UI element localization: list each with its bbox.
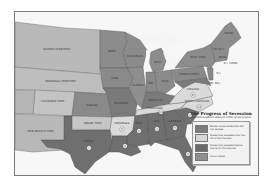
svg-text:10: 10 [197, 105, 201, 109]
order-marker-north-carolina: 10 [197, 105, 201, 109]
swatch-border-states [195, 125, 208, 133]
map-legend: The Progress of Secession (Circled numbe… [186, 111, 256, 166]
order-marker-tennessee: 11 [159, 110, 163, 114]
label-dakota: DAKOTA TERRITORY [43, 48, 71, 51]
label-indian: INDIAN TERR. [84, 122, 103, 125]
label-colorado: COLORADO TERR. [41, 100, 66, 103]
label-iowa: IOWA [111, 77, 119, 80]
svg-text:8: 8 [192, 93, 194, 97]
label-texas: TEXAS [85, 140, 94, 143]
label-alabama: ALA. [154, 120, 160, 123]
label-michigan: MICH. [154, 61, 162, 64]
label-vt-nh: VT. N.H. [214, 48, 225, 51]
legend-item-border-states: Border slave states that did not secede [195, 124, 247, 134]
svg-text:4: 4 [156, 127, 158, 131]
label-missouri: MISSOURI [114, 102, 128, 105]
swatch-union [195, 153, 208, 161]
label-pennsylvania: PENNSYLVANIA [179, 73, 200, 76]
legend-label: States that seceded after the fall of Fo… [210, 135, 247, 141]
order-marker-mississippi: 2 [137, 129, 141, 133]
svg-text:9: 9 [121, 127, 123, 131]
swatch-seceded-before [195, 144, 208, 152]
map-frame: DAKOTA TERRITORY NEBRASKA TERRITORY COLO… [14, 11, 259, 176]
svg-text:2: 2 [138, 129, 140, 133]
region-minnesota [100, 30, 127, 68]
label-arkansas: ARKANSAS [115, 122, 130, 125]
label-indiana: IND. [148, 82, 154, 85]
region-michigan [149, 48, 167, 72]
order-marker-arkansas: 9 [120, 127, 124, 131]
legend-label: Border slave states that did not secede [210, 126, 247, 132]
label-nebraska: NEBRASKA TERRITORY [46, 80, 77, 83]
label-kansas: KANSAS [86, 104, 97, 107]
label-ri-conn: R.I. CONN. [224, 62, 239, 65]
label-mass: MASS. [219, 56, 228, 59]
svg-text:6: 6 [124, 144, 126, 148]
order-marker-texas: 7 [87, 146, 91, 150]
label-maine: MAINE [225, 32, 234, 35]
svg-text:5: 5 [174, 126, 176, 130]
legend-item-seceded-after: States that seceded after the fall of Fo… [195, 134, 247, 144]
order-marker-virginia: 8 [191, 93, 195, 97]
label-mississippi: MISS. [135, 122, 143, 125]
legend-label: States that seceded before the fall of F… [210, 145, 247, 151]
label-new-york: NEW YORK [191, 56, 206, 59]
label-nj: N.J. [217, 72, 222, 75]
label-north-carolina: NORTH CAROLINA [185, 100, 210, 103]
order-marker-georgia: 5 [173, 126, 177, 130]
order-marker-louisiana: 6 [123, 144, 127, 148]
region-west-strip [15, 90, 35, 114]
label-virginia: VIRGINIA [187, 88, 200, 91]
label-new-mexico: NEW MEXICO TERR. [27, 130, 54, 133]
legend-label: Union states [210, 156, 225, 159]
region-colorado-territory [33, 90, 75, 116]
label-minnesota: MINN. [108, 50, 116, 53]
label-ohio: OHIO [161, 80, 168, 83]
legend-subtitle: (Circled numbers indicate order of seces… [186, 116, 256, 119]
region-new-jersey [207, 68, 213, 80]
great-lakes [139, 33, 183, 50]
lake-michigan [146, 50, 150, 70]
label-wisconsin: WISCONSIN [127, 55, 143, 58]
order-marker-alabama: 4 [155, 127, 159, 131]
legend-box: Border slave states that did not secede … [192, 121, 250, 165]
svg-text:7: 7 [88, 146, 90, 150]
swatch-seceded-after [195, 134, 208, 142]
label-md-del: MD. DEL. [209, 82, 222, 85]
label-illinois: ILLINOIS [132, 84, 144, 87]
legend-item-seceded-before: States that seceded before the fall of F… [195, 143, 247, 153]
label-kentucky: KENTUCKY [149, 99, 164, 102]
legend-item-union: Union states [195, 153, 247, 163]
svg-text:11: 11 [159, 110, 163, 114]
label-georgia: GEORGIA [169, 120, 182, 123]
